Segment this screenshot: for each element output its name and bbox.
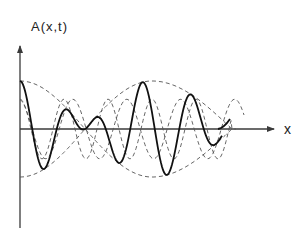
- resultant-wave: [20, 81, 222, 175]
- y-axis-label: A(x,t): [31, 19, 68, 34]
- x-axis-label: x: [284, 121, 291, 137]
- wave-packet-diagram: A(x,t) x: [0, 0, 300, 238]
